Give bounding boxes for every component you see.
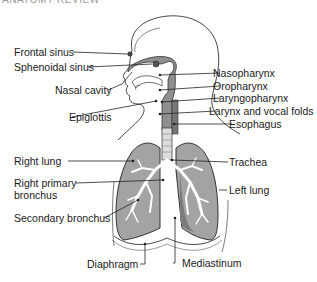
left-lung-shape [176, 143, 218, 240]
label-nasopharynx: Nasopharynx [213, 67, 275, 79]
label-sphenoidal-sinus: Sphenoidal sinus [14, 61, 94, 73]
label-right-primary-bronchus: Right primary [14, 177, 76, 189]
label-larynx-vocal-folds: Larynx and vocal folds [209, 105, 313, 117]
respiratory-system-illustration [0, 0, 317, 282]
label-right-lung: Right lung [14, 155, 61, 167]
right-lung-shape [116, 143, 160, 240]
label-esophagus: Esophagus [229, 118, 282, 130]
label-laryngopharynx: Laryngopharynx [213, 92, 288, 104]
upper-airway [128, 56, 176, 130]
trachea-shape [162, 128, 172, 160]
sphenoidal-sinus-shape [153, 61, 159, 67]
label-frontal-sinus: Frontal sinus [14, 46, 74, 58]
label-left-lung: Left lung [229, 184, 269, 196]
label-trachea: Trachea [229, 156, 267, 168]
label-nasal-cavity: Nasal cavity [55, 84, 112, 96]
label-oropharynx: Oropharynx [213, 80, 268, 92]
frontal-sinus-shape [128, 52, 133, 57]
label-diaphragm: Diaphragm [87, 258, 138, 270]
label-secondary-bronchus: Secondary bronchus [14, 212, 110, 224]
label-mediastinum: Mediastinum [182, 257, 242, 269]
palate-shape [132, 76, 162, 88]
label-right-primary-bronchus-2: bronchus [14, 189, 57, 201]
label-epiglottis: Epiglottis [69, 111, 112, 123]
esophagus-shape [172, 100, 178, 134]
